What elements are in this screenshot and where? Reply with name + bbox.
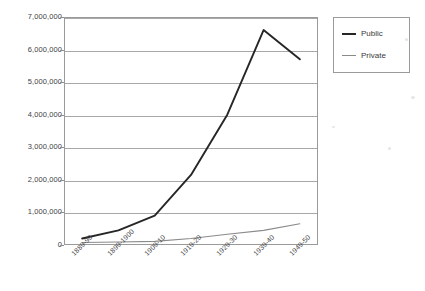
series-line-public <box>82 30 300 238</box>
y-tick-label: 0 <box>4 241 62 249</box>
legend-label-public: Public <box>361 29 383 38</box>
y-tick-label: 4,000,000 <box>4 111 62 119</box>
y-tick-label: 5,000,000 <box>4 78 62 86</box>
legend-entry-private: Private <box>342 51 386 60</box>
y-tick-label: 6,000,000 <box>4 46 62 54</box>
line-chart: 01,000,0002,000,0003,000,0004,000,0005,0… <box>0 0 425 291</box>
scan-speckle <box>388 147 391 150</box>
y-tick-label: 3,000,000 <box>4 143 62 151</box>
y-tick-mark <box>60 245 64 246</box>
legend-entry-public: Public <box>342 29 383 38</box>
data-series-layer <box>64 17 318 245</box>
legend-label-private: Private <box>361 51 386 60</box>
y-tick-label: 1,000,000 <box>4 208 62 216</box>
legend-swatch-public-icon <box>342 33 356 35</box>
scan-speckle <box>411 96 415 99</box>
scan-speckle <box>405 38 408 41</box>
scan-speckle <box>332 126 335 128</box>
y-tick-label: 2,000,000 <box>4 176 62 184</box>
y-tick-label: 7,000,000 <box>4 13 62 21</box>
legend-swatch-private-icon <box>342 55 356 56</box>
y-axis: 01,000,0002,000,0003,000,0004,000,0005,0… <box>0 0 62 291</box>
legend: Public Private <box>333 17 410 73</box>
